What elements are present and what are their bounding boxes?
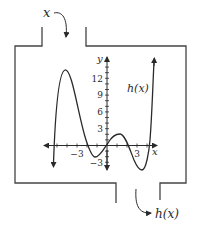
output-label: h(x) — [155, 207, 179, 221]
x-axis-label: x — [152, 146, 158, 157]
input-label: x — [43, 5, 51, 20]
input-arrow-icon — [54, 13, 66, 37]
y-tick-6: 6 — [97, 107, 103, 117]
function-machine-diagram: x h(x) — [0, 0, 199, 231]
y-tick-3: 3 — [97, 124, 103, 134]
y-tick-9: 9 — [97, 90, 103, 100]
y-tick-12: 12 — [92, 74, 103, 84]
y-axis-label: y — [96, 53, 103, 64]
y-tick-neg3: −3 — [90, 158, 104, 168]
graph: 12 9 6 3 −3 −3 3 x y h(x) — [44, 53, 158, 170]
x-tick-3: 3 — [134, 149, 140, 159]
x-tick-neg3: −3 — [70, 149, 84, 159]
output-arrow-icon — [136, 189, 151, 213]
function-label: h(x) — [127, 82, 149, 95]
